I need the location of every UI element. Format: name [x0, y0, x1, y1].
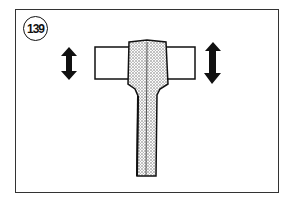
up-down-arrow-icon	[61, 47, 77, 80]
connecting-rod	[128, 40, 168, 176]
connecting-rod-illustration	[0, 0, 295, 201]
up-down-arrow-icon	[204, 42, 221, 84]
